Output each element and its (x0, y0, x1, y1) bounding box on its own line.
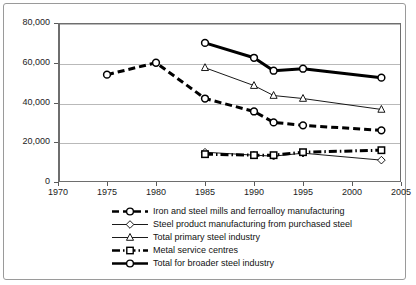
series-0 (104, 59, 385, 133)
data-point-marker (378, 127, 385, 134)
y-axis-tick-mark (54, 63, 58, 64)
legend-item-label: Total for broader steel industry (150, 258, 274, 268)
series-1 (201, 148, 385, 164)
y-axis-tick-label: 80,000 (0, 18, 50, 27)
y-axis-tick-mark (54, 142, 58, 143)
data-point-marker (251, 54, 258, 61)
data-point-marker (202, 151, 208, 157)
legend-item[interactable]: Total for broader steel industry (110, 256, 390, 269)
legend-marker-square-icon (110, 243, 150, 256)
y-axis-tick-mark (54, 23, 58, 24)
x-axis-tick-mark (401, 182, 402, 186)
x-axis-tick-mark (205, 182, 206, 186)
x-axis-tick-label: 1985 (185, 188, 225, 197)
y-axis-tick-label: 20,000 (0, 137, 50, 146)
data-point-marker (127, 247, 133, 253)
x-axis-tick-mark (352, 182, 353, 186)
x-axis-tick-label: 1975 (87, 188, 127, 197)
x-axis-tick-mark (303, 182, 304, 186)
data-point-marker (270, 152, 276, 158)
x-axis-tick-label: 1970 (38, 188, 78, 197)
legend-marker-circle-icon (110, 204, 150, 217)
x-axis-tick-mark (58, 182, 59, 186)
legend-item-label: Steel product manufacturing from purchas… (150, 219, 352, 229)
data-point-marker (104, 71, 111, 78)
series-4 (202, 39, 385, 81)
series-line (205, 43, 381, 78)
x-axis-tick-mark (156, 182, 157, 186)
data-point-marker (126, 221, 134, 229)
x-axis-tick-label: 2000 (332, 188, 372, 197)
legend-item[interactable]: Iron and steel mills and ferroalloy manu… (110, 204, 390, 217)
legend-marker-diamond-icon (110, 217, 150, 230)
data-point-marker (378, 156, 386, 164)
y-axis-tick-label: 60,000 (0, 58, 50, 67)
chart-legend: Iron and steel mills and ferroalloy manu… (110, 204, 390, 269)
data-point-marker (251, 108, 258, 115)
data-point-marker (378, 74, 385, 81)
x-axis-tick-label: 1980 (136, 188, 176, 197)
data-point-marker (251, 152, 257, 158)
legend-item-label: Total primary steel industry (150, 232, 260, 242)
data-point-marker (126, 234, 133, 241)
legend-item[interactable]: Total primary steel industry (110, 230, 390, 243)
x-axis-tick-label: 1995 (283, 188, 323, 197)
data-point-marker (201, 64, 208, 71)
series-3 (202, 147, 385, 158)
x-axis-tick-label: 1990 (234, 188, 274, 197)
data-point-marker (202, 95, 209, 102)
chart-figure: Iron and steel mills and ferroalloy manu… (3, 3, 406, 280)
data-point-marker (270, 67, 277, 74)
data-point-marker (270, 119, 277, 126)
data-point-marker (127, 208, 134, 215)
x-axis-tick-mark (254, 182, 255, 186)
data-point-marker (300, 149, 306, 155)
data-point-marker (300, 122, 307, 129)
chart-plot-lines (58, 23, 401, 182)
y-axis-tick-label: 0 (0, 177, 50, 186)
x-axis-tick-mark (107, 182, 108, 186)
data-point-marker (270, 92, 277, 99)
data-point-marker (127, 260, 134, 267)
data-point-marker (378, 147, 384, 153)
x-axis-tick-label: 2005 (381, 188, 416, 197)
series-line (205, 152, 381, 160)
legend-item-label: Metal service centres (150, 245, 238, 255)
legend-marker-circle-icon (110, 256, 150, 269)
data-point-marker (202, 39, 209, 46)
data-point-marker (153, 59, 160, 66)
data-point-marker (300, 65, 307, 72)
y-axis-tick-mark (54, 103, 58, 104)
legend-item[interactable]: Steel product manufacturing from purchas… (110, 217, 390, 230)
legend-marker-triangle-icon (110, 230, 150, 243)
legend-item[interactable]: Metal service centres (110, 243, 390, 256)
legend-item-label: Iron and steel mills and ferroalloy manu… (150, 206, 345, 216)
y-axis-tick-label: 40,000 (0, 98, 50, 107)
